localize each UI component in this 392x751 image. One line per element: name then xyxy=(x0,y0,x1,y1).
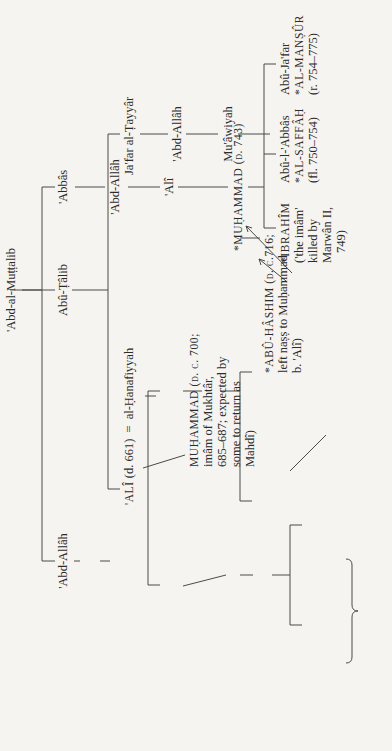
person-ali-abbasid: 'Alî xyxy=(162,178,176,196)
person-muawiyah: Mu'âwiyah xyxy=(221,106,235,162)
person-muhammad-hanafiyyah: MUḤAMMAD (d. c. 700; imâm of Mukhtâr, 68… xyxy=(187,333,257,467)
person-abd-allah-abbas: 'Abd-Allâh xyxy=(108,159,122,215)
person-al-saffah: Abû-l-'Abbâs *AL-SAFFÂḤ (fl. 750–754) xyxy=(278,108,320,183)
person-abu-hashim: *ABÛ-HÂSHIM (d. c.716; left naṣṣ to Muḥa… xyxy=(262,234,304,373)
genealogy-chart: 'Abd-al-Muṭṭalib Abû-Ṭâlib 'Abbâs 'Abd-A… xyxy=(0,0,392,751)
person-abd-allah-jafar: 'Abd-Allâh xyxy=(170,106,184,162)
person-al-mansur: Abû-Ja'far *AL-MANṢÛR (r. 754–775) xyxy=(278,15,320,95)
person-jafar-al-tayyar: Ja'far al-Ṭayyâr xyxy=(122,97,136,175)
person-abd-allah-prophet-father: 'Abd-Allâh xyxy=(56,533,70,589)
person-abbas: 'Abbâs xyxy=(56,170,70,204)
person-abd-al-muttalib: 'Abd-al-Muṭṭalib xyxy=(4,248,18,332)
book-page: 'Abd-al-Muṭṭalib Abû-Ṭâlib 'Abbâs 'Abd-A… xyxy=(0,0,392,751)
person-abu-talib: Abû-Ṭâlib xyxy=(56,264,70,316)
person-ali: 'ALÎ (d. 661) = al-Ḥanafiyyah xyxy=(122,348,136,505)
